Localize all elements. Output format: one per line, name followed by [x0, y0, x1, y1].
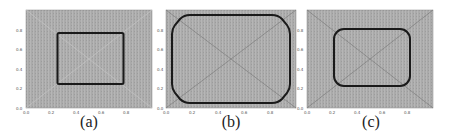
svg-text:0.2: 0.2 [48, 110, 55, 115]
svg-text:0.2: 0.2 [16, 86, 23, 91]
svg-text:0.8: 0.8 [404, 110, 411, 115]
svg-text:0.6: 0.6 [16, 47, 23, 52]
svg-text:0.8: 0.8 [157, 28, 164, 33]
svg-text:0.8: 0.8 [123, 110, 130, 115]
plot-c: 0.0 0.2 0.4 0.6 0.8 0.0 0.2 0.4 0.6 0.8 [300, 0, 452, 112]
svg-text:0.2: 0.2 [329, 110, 336, 115]
svg-text:0.2: 0.2 [297, 86, 304, 91]
panel-a: 0.0 0.2 0.4 0.6 0.8 0.0 0.2 0.4 0.6 0.8 … [0, 0, 155, 140]
svg-text:0.4: 0.4 [16, 67, 23, 72]
plot-b: 0.0 0.2 0.4 0.6 0.8 0.0 0.2 0.4 0.6 0.8 [150, 0, 305, 112]
caption-c: (c) [351, 113, 391, 131]
svg-text:0.2: 0.2 [189, 110, 196, 115]
svg-text:0.6: 0.6 [157, 47, 164, 52]
svg-text:0.0: 0.0 [304, 110, 311, 115]
svg-text:0.4: 0.4 [297, 67, 304, 72]
svg-text:0.0: 0.0 [163, 110, 170, 115]
svg-text:0.2: 0.2 [157, 86, 164, 91]
svg-text:0.4: 0.4 [157, 67, 164, 72]
caption-b: (b) [211, 113, 251, 131]
svg-text:0.8: 0.8 [267, 110, 274, 115]
y-ticks-a: 0.0 0.2 0.4 0.6 0.8 [16, 28, 23, 111]
svg-text:0.0: 0.0 [297, 106, 304, 111]
caption-a: (a) [69, 113, 109, 131]
svg-text:0.0: 0.0 [16, 106, 23, 111]
svg-text:0.0: 0.0 [23, 110, 30, 115]
svg-text:0.8: 0.8 [16, 28, 23, 33]
panel-b: 0.0 0.2 0.4 0.6 0.8 0.0 0.2 0.4 0.6 0.8 … [150, 0, 305, 140]
y-ticks-b: 0.0 0.2 0.4 0.6 0.8 [157, 28, 164, 111]
svg-text:0.8: 0.8 [297, 28, 304, 33]
plot-a: 0.0 0.2 0.4 0.6 0.8 0.0 0.2 0.4 0.6 0.8 [0, 0, 155, 112]
svg-text:0.6: 0.6 [297, 47, 304, 52]
panel-c: 0.0 0.2 0.4 0.6 0.8 0.0 0.2 0.4 0.6 0.8 … [300, 0, 452, 140]
